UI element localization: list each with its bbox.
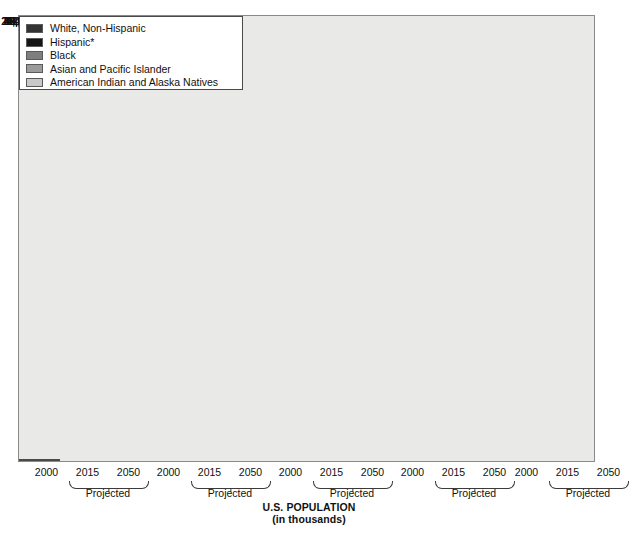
chart-title-subtitle: (in thousands) xyxy=(0,514,618,526)
legend-item: Asian and Pacific Islander xyxy=(26,62,233,75)
legend-swatch-icon xyxy=(26,38,43,47)
chart-title-main: U.S. POPULATION xyxy=(0,502,618,514)
projected-label: Projected xyxy=(330,487,374,499)
projected-label: Projected xyxy=(86,487,130,499)
legend-swatch-icon xyxy=(26,24,43,33)
chart-legend: White, Non-HispanicHispanic*BlackAsian a… xyxy=(19,16,243,90)
projected-label: Projected xyxy=(566,487,610,499)
projected-label: Projected xyxy=(208,487,252,499)
plot-area: 211,460204,590212,99135,30549,25598,2293… xyxy=(18,15,595,462)
legend-label: Hispanic* xyxy=(50,37,94,48)
legend-label: White, Non-Hispanic xyxy=(50,23,146,34)
legend-swatch-icon xyxy=(26,78,43,87)
x-axis-tick-2000: 2000 xyxy=(35,466,58,478)
legend-item: American Indian and Alaska Natives xyxy=(26,76,233,89)
legend-swatch-icon xyxy=(26,51,43,60)
legend-label: Black xyxy=(50,50,76,61)
x-axis-tick-2015: 2015 xyxy=(556,466,579,478)
x-axis-tick-2000: 2000 xyxy=(401,466,424,478)
x-axis-tick-2050: 2050 xyxy=(597,466,620,478)
legend-item: Hispanic* xyxy=(26,35,233,48)
x-axis-tick-2050: 2050 xyxy=(361,466,384,478)
x-axis-tick-2050: 2050 xyxy=(239,466,262,478)
projected-label: Projected xyxy=(452,487,496,499)
legend-item: White, Non-Hispanic xyxy=(26,22,233,35)
legend-label: American Indian and Alaska Natives xyxy=(50,77,218,88)
legend-item: Black xyxy=(26,49,233,62)
x-axis-tick-2015: 2015 xyxy=(320,466,343,478)
legend-swatch-icon xyxy=(26,64,43,73)
x-axis-tick-2015: 2015 xyxy=(442,466,465,478)
x-axis-tick-2015: 2015 xyxy=(198,466,221,478)
x-axis-tick-2050: 2050 xyxy=(483,466,506,478)
x-axis-tick-2000: 2000 xyxy=(279,466,302,478)
x-axis-tick-2000: 2000 xyxy=(157,466,180,478)
x-axis-tick-2015: 2015 xyxy=(76,466,99,478)
chart-title: U.S. POPULATION (in thousands) xyxy=(0,502,618,525)
legend-label: Asian and Pacific Islander xyxy=(50,64,171,75)
x-axis-tick-2000: 2000 xyxy=(515,466,538,478)
x-axis-tick-2050: 2050 xyxy=(117,466,140,478)
bar xyxy=(19,459,60,461)
